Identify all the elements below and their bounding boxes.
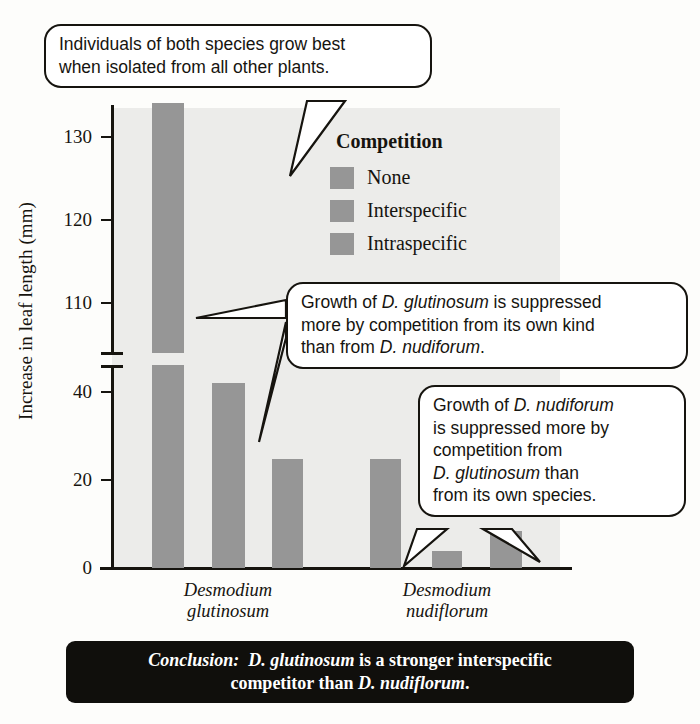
callout-middle-species-1: D. glutinosum xyxy=(382,292,489,312)
callout-middle-l1a: Growth of xyxy=(301,292,382,312)
callout-right-l3: competition from xyxy=(433,440,562,460)
callout-middle-species-2: D. nudiforum xyxy=(380,337,480,357)
callout-top: Individuals of both species grow best wh… xyxy=(44,24,432,88)
callout-right-species-2: D. glutinosum xyxy=(433,463,540,483)
callout-middle-l3a: than from xyxy=(301,337,380,357)
callout-middle-l2: more by competition from its own kind xyxy=(301,315,595,335)
callout-right-l2: is suppressed more by xyxy=(433,418,609,438)
callout-top-line-2: when isolated from all other plants. xyxy=(59,57,329,77)
callout-top-line-1: Individuals of both species grow best xyxy=(59,34,345,54)
callout-middle: Growth of D. glutinosum is suppressed mo… xyxy=(286,282,688,369)
callout-middle-l3b: . xyxy=(480,337,485,357)
callout-right: Growth of D. nudiforum is suppressed mor… xyxy=(418,385,686,517)
callout-right-species-1: D. nudiforum xyxy=(514,395,614,415)
callout-right-l4b: than xyxy=(540,463,579,483)
callout-middle-l1b: is suppressed xyxy=(489,292,602,312)
callout-right-l5: from its own species. xyxy=(433,485,596,505)
callout-right-l1a: Growth of xyxy=(433,395,514,415)
figure-root: 130 120 110 40 20 0 Increase in leaf len… xyxy=(0,0,700,724)
